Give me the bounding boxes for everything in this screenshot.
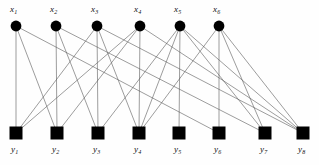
edge-layer [16, 26, 303, 133]
graph-edge [219, 26, 265, 133]
graph-edge [140, 26, 303, 133]
label-subscript: 3 [97, 149, 100, 155]
node-label-x1: x1 [10, 5, 17, 14]
graph-edge [56, 26, 98, 133]
graph-edge [16, 26, 97, 133]
node-label-y7: y7 [260, 145, 267, 154]
label-subscript: 2 [56, 149, 59, 155]
graph-edge [139, 26, 180, 133]
node-label-x3: x3 [91, 5, 98, 14]
graph-node-y4 [133, 127, 146, 140]
graph-node-x2 [51, 21, 62, 32]
node-label-y8: y8 [298, 145, 305, 154]
graph-canvas [0, 0, 319, 165]
graph-node-x3 [92, 21, 103, 32]
graph-edge [180, 26, 265, 133]
node-label-y3: y3 [93, 145, 100, 154]
label-subscript: 6 [217, 9, 220, 15]
label-subscript: 7 [264, 149, 267, 155]
graph-edge [16, 26, 219, 133]
graph-edge [97, 26, 98, 133]
node-label-y1: y1 [11, 145, 18, 154]
graph-node-y7 [259, 127, 272, 140]
node-label-y4: y4 [134, 145, 141, 154]
graph-edge [57, 26, 140, 133]
graph-node-y6 [213, 127, 226, 140]
graph-node-y8 [297, 127, 310, 140]
label-subscript: 3 [95, 9, 98, 15]
label-subscript: 4 [138, 9, 141, 15]
bipartite-graph-figure: x1x2x3x4x5x6y1y2y3y4y5y6y7y8 [0, 0, 319, 165]
node-label-x5: x5 [174, 5, 181, 14]
label-subscript: 1 [14, 9, 17, 15]
graph-node-x5 [175, 21, 186, 32]
graph-node-x4 [135, 21, 146, 32]
node-label-x6: x6 [213, 5, 220, 14]
graph-edge [219, 26, 303, 133]
graph-edge [16, 26, 140, 133]
node-label-x4: x4 [134, 5, 141, 14]
label-subscript: 2 [54, 9, 57, 15]
graph-node-y2 [51, 127, 64, 140]
label-subscript: 5 [178, 9, 181, 15]
node-label-x2: x2 [50, 5, 57, 14]
graph-node-y3 [92, 127, 105, 140]
node-label-y2: y2 [52, 145, 59, 154]
graph-edge [97, 26, 139, 133]
graph-edge [180, 26, 303, 133]
graph-node-x6 [214, 21, 225, 32]
node-label-y6: y6 [214, 145, 221, 154]
graph-node-x1 [11, 21, 22, 32]
label-subscript: 8 [302, 149, 305, 155]
graph-node-y1 [10, 127, 23, 140]
graph-node-y5 [173, 127, 186, 140]
label-subscript: 5 [178, 149, 181, 155]
label-subscript: 4 [138, 149, 141, 155]
label-subscript: 1 [15, 149, 18, 155]
label-subscript: 6 [218, 149, 221, 155]
graph-edge [16, 26, 57, 133]
graph-edge [56, 26, 265, 133]
node-label-y5: y5 [174, 145, 181, 154]
